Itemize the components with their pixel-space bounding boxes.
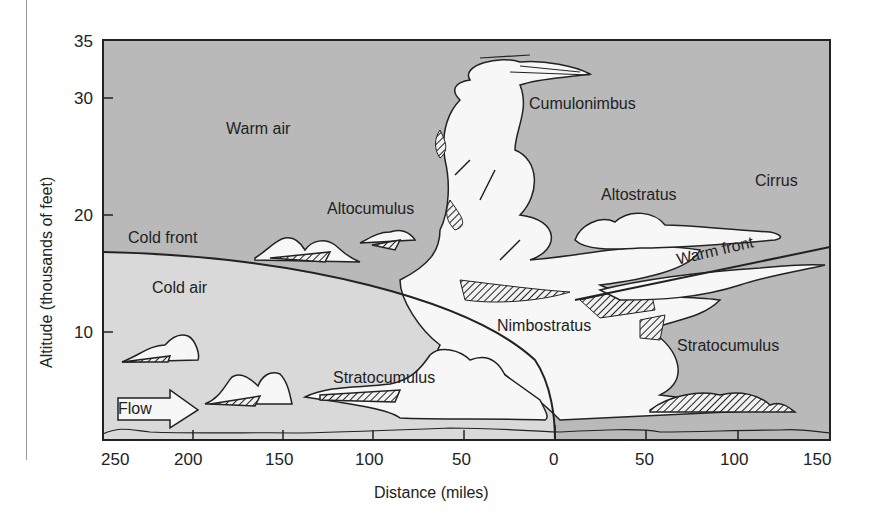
y-tick-35: 35 <box>74 33 93 50</box>
x-tick-50-right: 50 <box>635 451 654 468</box>
cirrus-label: Cirrus <box>755 173 798 189</box>
x-tick-100: 100 <box>355 451 383 468</box>
cold-air-label: Cold air <box>152 280 207 296</box>
y-axis-label: Altitude (thousands of feet) <box>38 177 56 368</box>
x-tick-150-right: 150 <box>803 451 831 468</box>
warm-air-label: Warm air <box>226 121 290 137</box>
cold-front-label: Cold front <box>128 230 197 246</box>
stratocumulus-right-label: Stratocumulus <box>677 338 779 354</box>
x-tick-250: 250 <box>101 451 129 468</box>
altostratus-label: Altostratus <box>601 187 677 203</box>
cold-front-cross-section <box>0 0 880 523</box>
y-tick-30: 30 <box>74 90 93 107</box>
cumulonimbus-label: Cumulonimbus <box>529 96 636 112</box>
y-tick-10: 10 <box>74 324 93 341</box>
altocumulus-label: Altocumulus <box>327 201 414 217</box>
x-tick-100-right: 100 <box>720 451 748 468</box>
stratocumulus-left-label: Stratocumulus <box>333 370 435 386</box>
y-tick-20: 20 <box>74 207 93 224</box>
flow-label: Flow <box>118 400 152 418</box>
x-tick-50-left: 50 <box>452 451 471 468</box>
x-tick-0: 0 <box>549 451 558 468</box>
nimbostratus-label: Nimbostratus <box>497 318 591 334</box>
x-axis-label: Distance (miles) <box>374 484 489 502</box>
x-tick-150: 150 <box>265 451 293 468</box>
x-tick-200: 200 <box>174 451 202 468</box>
